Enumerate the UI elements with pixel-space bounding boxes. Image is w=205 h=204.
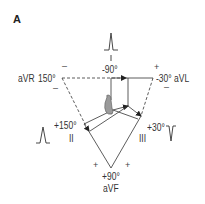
polarity-plus-top-right: + [154,63,159,72]
einthoven-triangle-diagram: A [0,0,205,204]
lead-iii-angle-label: +30° [147,123,165,133]
polarity-minus-avl: – [164,83,169,92]
lead-ii-waveform-icon [36,127,50,143]
polarity-plus-bottom-right: + [125,161,130,170]
lead-i-angle-label: -90° [102,65,118,75]
lead-iii-waveform-icon [166,126,176,141]
lead-ii-label: II [69,134,74,144]
avr-label: aVR [18,74,35,84]
polarity-minus-top-left: – [62,62,67,71]
lead-iii-label: III [139,134,146,144]
polarity-plus-bottom-left: + [93,161,98,170]
avf-angle-label: +90° [102,172,120,182]
avf-label: aVF [103,184,119,194]
lead-ii-angle-label: +150° [54,121,77,131]
avl-label: -30° aVL [156,74,189,84]
lead-i-waveform-icon [104,33,118,61]
polarity-minus-avr: – [53,84,58,93]
heart-icon [105,95,113,114]
vector-projections [84,78,141,131]
